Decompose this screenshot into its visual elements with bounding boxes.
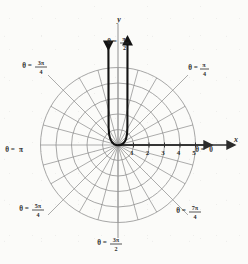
angle-label-theta-pi-4-denominator: 4	[203, 71, 206, 77]
angle-label-theta-0-text: θ =	[195, 146, 205, 154]
ray-135	[48, 75, 63, 90]
angle-label-theta-3pi-4: θ = 3π 4	[22, 60, 47, 75]
angle-label-theta-0: θ = 0	[195, 146, 213, 154]
angle-label-theta-pi-4-text: θ =	[188, 64, 198, 72]
angle-label-theta-5pi-4-numerator: 5π	[35, 203, 42, 209]
angle-label-theta-5pi-4: θ = 5π 4	[19, 203, 44, 218]
angle-label-theta-7pi-4-numerator: 7π	[192, 205, 199, 211]
angle-label-theta-3pi-2: θ = 3π 2	[97, 237, 122, 252]
spoke-300	[118, 145, 157, 212]
angle-label-theta-3pi-2-denominator: 2	[114, 246, 117, 252]
x-tick-label-3: 3	[161, 149, 165, 157]
angle-label-theta-pi-value: π	[19, 146, 23, 154]
ray-45	[173, 75, 188, 90]
x-tick-label-2: 2	[146, 149, 150, 157]
angle-label-theta-7pi-4-text: θ =	[176, 207, 186, 215]
angle-label-theta-pi-2-text: θ =	[107, 38, 117, 46]
spoke-210	[51, 145, 118, 184]
spoke-345	[118, 145, 193, 165]
ray-225	[48, 200, 63, 215]
angle-label-theta-pi-text: θ =	[5, 146, 15, 154]
angle-label-theta-pi: θ = π	[5, 146, 23, 154]
angle-label-theta-7pi-4-denominator: 4	[193, 214, 196, 220]
angle-label-theta-pi-4: θ = π 4	[188, 62, 209, 77]
spoke-285	[118, 145, 138, 220]
x-axis-label: x	[233, 135, 238, 144]
angle-label-theta-5pi-4-text: θ =	[19, 205, 29, 213]
angle-label-theta-7pi-4: θ = 7π 4	[176, 205, 201, 220]
angle-label-theta-0-value: 0	[209, 146, 213, 154]
y-axis-label: y	[116, 15, 121, 24]
angle-label-theta-pi-4-numerator: π	[202, 62, 206, 68]
spoke-330	[118, 145, 185, 184]
spoke-255	[98, 145, 118, 220]
angle-label-theta-5pi-4-denominator: 4	[36, 212, 39, 218]
spoke-240	[79, 145, 118, 212]
angle-label-theta-3pi-4-numerator: 3π	[38, 60, 45, 66]
polar-plot-figure: 1 2 3 4 5 y x θ = 0 θ = π 4 θ = π	[0, 0, 248, 264]
angle-label-theta-3pi-2-numerator: 3π	[113, 237, 120, 243]
angle-label-theta-pi-2-denominator: 2	[123, 45, 126, 51]
spoke-165	[43, 125, 118, 145]
angle-label-theta-pi-2-numerator: π	[122, 36, 126, 42]
spoke-195	[43, 145, 118, 165]
angle-label-theta-3pi-4-denominator: 4	[39, 69, 42, 75]
x-axis-tick-labels: 1 2 3 4 5	[130, 149, 196, 157]
polar-plot-svg: 1 2 3 4 5 y x θ = 0 θ = π 4 θ = π	[0, 0, 248, 264]
angle-label-theta-3pi-2-text: θ =	[97, 239, 107, 247]
angle-label-theta-3pi-4-text: θ =	[22, 62, 32, 70]
spoke-60	[118, 78, 157, 145]
spoke-15	[118, 125, 193, 145]
x-tick-label-4: 4	[177, 149, 181, 157]
spoke-120	[79, 78, 118, 145]
spoke-225	[63, 145, 118, 200]
x-tick-label-1: 1	[130, 149, 134, 157]
